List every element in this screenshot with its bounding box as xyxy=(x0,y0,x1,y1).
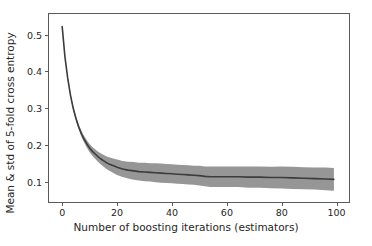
x-tick-mark xyxy=(62,203,63,206)
plot-svg xyxy=(49,14,349,202)
plot-area xyxy=(48,13,350,203)
y-tick-mark xyxy=(45,182,48,183)
y-tick-label: 0.4 xyxy=(27,66,42,77)
y-tick-mark xyxy=(45,145,48,146)
y-axis-label-wrapper: Mean & std of 5-fold cross entropy xyxy=(0,0,20,246)
x-tick-mark xyxy=(117,203,118,206)
x-tick-label: 60 xyxy=(221,207,233,218)
x-axis-label: Number of boosting iterations (estimator… xyxy=(0,221,372,234)
y-tick-mark xyxy=(45,108,48,109)
x-tick-mark xyxy=(172,203,173,206)
x-tick-mark xyxy=(337,203,338,206)
std-band xyxy=(62,26,334,191)
x-tick-label: 80 xyxy=(276,207,288,218)
x-tick-label: 100 xyxy=(328,207,346,218)
y-tick-label: 0.3 xyxy=(27,103,42,114)
y-tick-mark xyxy=(45,71,48,72)
y-axis-label: Mean & std of 5-fold cross entropy xyxy=(4,32,17,213)
x-tick-mark xyxy=(282,203,283,206)
y-tick-label: 0.1 xyxy=(27,176,42,187)
y-tick-mark xyxy=(45,35,48,36)
x-tick-label: 0 xyxy=(59,207,65,218)
y-tick-label: 0.5 xyxy=(27,29,42,40)
x-tick-label: 40 xyxy=(166,207,178,218)
x-tick-mark xyxy=(227,203,228,206)
y-tick-label: 0.2 xyxy=(27,139,42,150)
figure-canvas: 020406080100 0.10.20.30.40.5 Number of b… xyxy=(0,0,372,246)
x-tick-label: 20 xyxy=(111,207,123,218)
